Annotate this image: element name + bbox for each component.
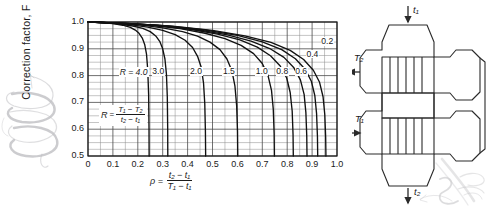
return-bend [480,58,485,153]
rho-numerator: t₂ − t₁ [167,171,193,181]
tube-bundle-lower [382,118,434,154]
x-tick-0.5: 0.5 [200,159,226,169]
x-tick-0.6: 0.6 [224,159,250,169]
curve-label-1.5: 1.5 [222,67,235,76]
x-tick-0: 0 [75,159,101,169]
x-axis-caption: ρ = t₂ − t₁ T₁ − t₁ [150,171,193,192]
r-symbol: R [101,111,108,120]
rho-fraction: t₂ − t₁ T₁ − t₁ [165,171,193,192]
inlet-arrow-top [404,6,411,24]
curve-label-4.0: R = 4.0 [119,67,149,77]
curve-label-0.6: 0.6 [295,67,308,76]
shell-outline [360,25,480,186]
y-tick-0.9: 0.9 [58,43,84,53]
y-tick-0.6: 0.6 [58,123,84,133]
rho-symbol: ρ = [150,177,163,186]
heat-exchanger-schematic: t₁ t₂ T₂ T₁ [352,0,489,211]
outlet-arrow-left-upper [352,68,360,75]
figure-root: Correction factor, F 0.50.60.70.80.91.0 … [0,0,489,211]
y-tick-0.8: 0.8 [58,70,84,80]
label-t1-inlet: t₁ [413,4,419,15]
r-denominator: t₂ − t₁ [119,115,142,124]
curve-label-3.0: 3.0 [152,67,165,76]
curve-label-1.0: 1.0 [255,67,268,76]
lmtd-correction-factor-chart: Correction factor, F 0.50.60.70.80.91.0 … [0,0,352,211]
curve-label-0.4: 0.4 [306,50,319,59]
x-tick-0.7: 0.7 [249,159,275,169]
r-numerator: T₁ − T₂ [116,106,144,115]
label-T2-outlet: T₂ [354,52,363,63]
y-tick-1.0: 1.0 [58,16,84,26]
r-definition-annotation: R = T₁ − T₂ t₂ − t₁ [99,105,147,126]
x-tick-0.1: 0.1 [100,159,126,169]
y-tick-0.7: 0.7 [58,96,84,106]
curve-label-0.2: 0.2 [321,37,334,46]
baffle-divider [382,93,434,118]
x-tick-0.8: 0.8 [274,159,300,169]
rho-denominator: T₁ − t₁ [165,181,193,191]
r-equals: = [110,111,115,119]
x-tick-0.9: 0.9 [299,159,325,169]
r-fraction: T₁ − T₂ t₂ − t₁ [116,106,144,125]
curve-label-2.0: 2.0 [190,67,203,76]
x-tick-0.2: 0.2 [125,159,151,169]
label-T1-inlet: T₁ [355,113,364,124]
x-tick-1.0: 1.0 [324,159,350,169]
label-t2-outlet: t₂ [414,186,420,197]
tube-bundle-upper [382,57,434,93]
x-tick-0.4: 0.4 [175,159,201,169]
curve-label-0.8: 0.8 [276,67,289,76]
x-tick-0.3: 0.3 [150,159,176,169]
outlet-arrow-bottom [404,188,411,205]
